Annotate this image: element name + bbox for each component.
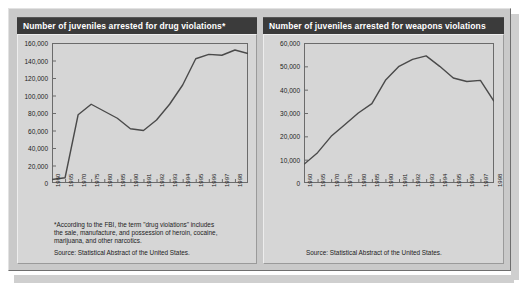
x-axis-label: 1991 bbox=[146, 174, 152, 187]
x-axis-label: 1970 bbox=[81, 174, 87, 187]
data-line bbox=[52, 50, 248, 180]
x-axis-label: 1985 bbox=[374, 174, 380, 187]
panel-drug-violations: Number of juveniles arrested for drug vi… bbox=[17, 17, 257, 264]
x-axis-label: 1997 bbox=[483, 174, 489, 187]
y-axis-label: 60,000 bbox=[280, 40, 300, 47]
y-axis-label: 0 bbox=[44, 180, 48, 187]
y-axis-label: 20,000 bbox=[28, 162, 48, 169]
source-drug: Source: Statistical Abstract of the Unit… bbox=[54, 249, 190, 256]
plot-frame bbox=[53, 44, 248, 183]
x-axis-label: 1965 bbox=[320, 174, 326, 187]
plate-shadow-bottom bbox=[14, 275, 514, 283]
chart-svg bbox=[52, 43, 248, 183]
x-axis-label: 1992 bbox=[159, 174, 165, 187]
x-axis-label: 1993 bbox=[172, 174, 178, 187]
x-axis-label: 1990 bbox=[388, 174, 394, 187]
x-axis-label: 1995 bbox=[198, 174, 204, 187]
x-axis-label: 1997 bbox=[224, 174, 230, 187]
x-axis-label: 1994 bbox=[442, 174, 448, 187]
x-axis-label: 1998 bbox=[237, 174, 243, 187]
figure-plate: Number of juveniles arrested for drug vi… bbox=[8, 8, 511, 271]
footnote-drug: *According to the FBI, the term "drug vi… bbox=[54, 221, 217, 246]
panel-title-drug: Number of juveniles arrested for drug vi… bbox=[23, 21, 225, 31]
y-axis-label: 120,000 bbox=[25, 75, 49, 82]
x-axis-label: 1995 bbox=[456, 174, 462, 187]
chart-weapons-violations: 010,00020,00030,00040,00050,00060,000196… bbox=[263, 34, 504, 264]
x-axis-label: 1980 bbox=[107, 174, 113, 187]
panel-title-weapons: Number of juveniles arrested for weapons… bbox=[269, 21, 486, 31]
y-axis-label: 60,000 bbox=[28, 127, 48, 134]
figure-root: Number of juveniles arrested for drug vi… bbox=[0, 0, 529, 291]
plate-shadow-right bbox=[511, 14, 519, 280]
y-axis-label: 50,000 bbox=[280, 63, 300, 70]
panel-weapons-violations: Number of juveniles arrested for weapons… bbox=[263, 17, 504, 264]
x-axis-label: 1993 bbox=[429, 174, 435, 187]
x-axis-label: 1996 bbox=[469, 174, 475, 187]
plot-area-drug: 020,00040,00060,00080,000100,000120,0001… bbox=[52, 43, 248, 183]
x-axis-label: 1975 bbox=[347, 174, 353, 187]
source-weapons: Source: Statistical Abstract of the Unit… bbox=[306, 249, 442, 256]
y-axis-label: 40,000 bbox=[28, 145, 48, 152]
plot-area-weapons: 010,00020,00030,00040,00050,00060,000196… bbox=[304, 43, 494, 183]
chart-svg bbox=[304, 43, 494, 183]
y-axis-label: 140,000 bbox=[25, 57, 49, 64]
y-axis-label: 80,000 bbox=[28, 110, 48, 117]
x-axis-label: 1991 bbox=[402, 174, 408, 187]
x-axis-label: 1970 bbox=[334, 174, 340, 187]
x-axis-label: 1992 bbox=[415, 174, 421, 187]
x-axis-label: 1996 bbox=[211, 174, 217, 187]
y-axis-label: 100,000 bbox=[25, 92, 49, 99]
x-axis-label: 1998 bbox=[497, 174, 503, 187]
x-axis-label: 1980 bbox=[361, 174, 367, 187]
x-axis-label: 1975 bbox=[94, 174, 100, 187]
data-line bbox=[304, 56, 494, 165]
chart-drug-violations: 020,00040,00060,00080,000100,000120,0001… bbox=[17, 34, 257, 264]
panel-title-bar-weapons: Number of juveniles arrested for weapons… bbox=[263, 17, 504, 34]
y-axis-label: 30,000 bbox=[280, 110, 300, 117]
x-axis-label: 1994 bbox=[185, 174, 191, 187]
y-axis-label: 0 bbox=[296, 180, 300, 187]
y-axis-label: 160,000 bbox=[25, 40, 49, 47]
x-axis-label: 1960 bbox=[55, 174, 61, 187]
x-axis-label: 1965 bbox=[68, 174, 74, 187]
plot-frame bbox=[305, 44, 494, 183]
y-axis-label: 20,000 bbox=[280, 133, 300, 140]
x-axis-label: 1960 bbox=[307, 174, 313, 187]
panel-title-bar-drug: Number of juveniles arrested for drug vi… bbox=[17, 17, 257, 34]
x-axis-label: 1985 bbox=[120, 174, 126, 187]
y-axis-label: 10,000 bbox=[280, 156, 300, 163]
y-axis-label: 40,000 bbox=[280, 86, 300, 93]
x-axis-label: 1990 bbox=[133, 174, 139, 187]
